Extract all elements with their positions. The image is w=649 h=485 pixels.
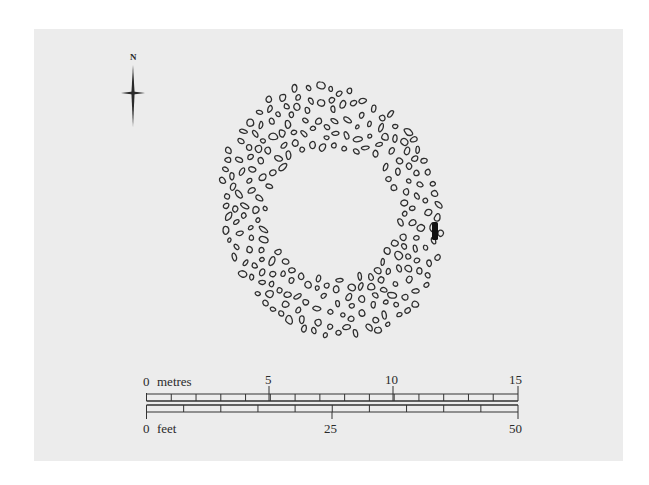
stone: [247, 119, 254, 126]
stone: [394, 302, 399, 307]
stone: [292, 84, 297, 92]
stone: [336, 278, 343, 282]
stone: [246, 145, 251, 151]
stone: [404, 129, 413, 136]
stone: [284, 292, 291, 298]
stone: [269, 281, 274, 287]
stone: [401, 244, 406, 250]
stone: [410, 137, 417, 142]
stone: [258, 158, 264, 164]
stone: [403, 189, 408, 195]
stone: [315, 319, 321, 326]
stone: [396, 158, 402, 164]
stone: [423, 245, 427, 250]
stone: [409, 220, 416, 226]
stone: [401, 138, 408, 145]
stone: [284, 104, 289, 109]
stone: [359, 310, 365, 316]
stone: [289, 268, 296, 273]
stone: [329, 86, 333, 91]
stone: [316, 275, 321, 282]
stone: [224, 194, 229, 199]
stone: [223, 226, 229, 234]
black-stone-marker: [432, 222, 438, 240]
stone: [380, 287, 387, 292]
stone: [336, 91, 342, 96]
stone: [425, 169, 430, 175]
feet-unit-label: feet: [157, 422, 176, 435]
stone: [406, 254, 411, 259]
stone: [402, 211, 407, 216]
stone: [391, 240, 398, 246]
stone: [263, 300, 269, 306]
stone: [281, 142, 287, 148]
stone: [369, 274, 374, 281]
stone: [348, 316, 354, 321]
stone: [421, 158, 427, 163]
stone: [385, 322, 389, 326]
stone: [235, 157, 242, 162]
stone: [347, 88, 352, 93]
metres-zero-label: 0: [143, 375, 150, 388]
stone: [348, 284, 356, 291]
stone: [292, 140, 298, 147]
stone: [384, 248, 390, 255]
stone: [353, 330, 357, 337]
stone: [402, 294, 408, 300]
stone: [310, 141, 316, 148]
stone: [400, 234, 406, 240]
stone: [315, 286, 319, 290]
stone: [341, 313, 345, 317]
stone: [248, 188, 255, 194]
stone: [223, 167, 229, 172]
stone: [417, 225, 425, 232]
stone: [361, 146, 369, 150]
stone: [286, 315, 293, 324]
stone: [253, 206, 259, 213]
stone: [373, 317, 379, 323]
stone: [350, 101, 356, 106]
stone: [296, 95, 301, 101]
stone: [259, 280, 266, 284]
stone: [286, 151, 291, 160]
stone: [255, 145, 262, 152]
stone: [397, 313, 402, 317]
stone: [358, 283, 363, 291]
stone: [368, 134, 372, 138]
stone: [305, 281, 312, 288]
stone: [239, 168, 244, 176]
stone: [249, 235, 253, 240]
stone: [275, 249, 282, 254]
stone: [331, 106, 335, 112]
stone: [279, 164, 287, 171]
stone: [329, 97, 335, 103]
stone: [238, 138, 244, 143]
stone: [269, 257, 275, 266]
stone: [378, 277, 384, 283]
stone: [240, 129, 248, 133]
stone: [366, 324, 372, 331]
stone: [413, 236, 419, 241]
stone: [238, 271, 246, 277]
stone: [333, 286, 339, 293]
stone: [336, 301, 340, 307]
stone: [382, 133, 389, 140]
stone: [393, 282, 398, 287]
stone: [425, 209, 432, 215]
stone: [266, 96, 272, 102]
stone: [270, 271, 276, 276]
stone: [275, 156, 283, 162]
stone: [412, 156, 418, 161]
stone: [340, 100, 346, 108]
stone: [252, 130, 258, 137]
stone: [391, 185, 397, 191]
stone: [344, 117, 352, 123]
stone: [256, 110, 262, 114]
stone: [372, 293, 378, 298]
stone: [379, 115, 385, 121]
stone: [409, 206, 415, 210]
stone: [241, 213, 246, 219]
stone: [323, 333, 327, 338]
stone: [396, 265, 401, 272]
stone-ring: [219, 82, 443, 338]
